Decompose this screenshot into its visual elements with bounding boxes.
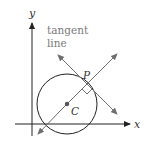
center-c-label: C — [71, 105, 79, 117]
tangent-line-lower — [87, 84, 117, 114]
x-axis-label: x — [134, 118, 141, 131]
right-angle-marker — [82, 89, 92, 94]
center-point — [65, 102, 69, 106]
tangent-label-line1: tangent — [47, 24, 89, 36]
radius-line — [38, 111, 60, 134]
y-axis-label: y — [28, 7, 36, 20]
tangent-label-line2: line — [47, 37, 67, 49]
tangent-diagram: y x tangent line P C — [0, 0, 147, 148]
point-p-label: P — [82, 69, 91, 81]
